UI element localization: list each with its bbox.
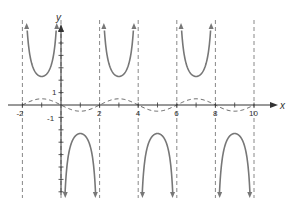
- curve-arrow-icon: [63, 192, 68, 198]
- csc-branch: [142, 134, 173, 194]
- curve-arrow-icon: [101, 23, 106, 29]
- curve-arrow-icon: [54, 23, 59, 29]
- x-axis-arrow-icon: [270, 102, 278, 108]
- csc-graph: x y -2246810 1 -1: [0, 0, 286, 200]
- x-tick-label: 8: [213, 109, 218, 118]
- csc-branch: [104, 30, 133, 76]
- x-axis-label: x: [279, 100, 286, 111]
- curve-arrow-icon: [209, 23, 214, 29]
- curve-arrow-icon: [93, 192, 98, 198]
- csc-branch: [27, 30, 56, 76]
- csc-branch: [219, 134, 250, 194]
- csc-branch: [182, 30, 211, 76]
- x-tick-label: -2: [16, 109, 24, 118]
- x-tick-label: 10: [249, 109, 258, 118]
- y-tick-label-1: 1: [52, 88, 57, 97]
- x-tick-label: 6: [174, 109, 179, 118]
- axes: x y -2246810 1 -1: [8, 12, 286, 195]
- curve-arrow-icon: [247, 192, 252, 198]
- csc-branch: [65, 134, 96, 194]
- curve-arrow-icon: [179, 23, 184, 29]
- curve-arrow-icon: [140, 192, 145, 198]
- x-tick-label: 4: [136, 109, 141, 118]
- y-axis-label: y: [55, 12, 62, 23]
- curve-arrow-icon: [170, 192, 175, 198]
- y-tick-label-neg1: -1: [47, 114, 55, 123]
- curve-arrow-icon: [217, 192, 222, 198]
- x-tick-label: 2: [97, 109, 102, 118]
- curve-arrow-icon: [24, 23, 29, 29]
- curve-arrow-icon: [131, 23, 136, 29]
